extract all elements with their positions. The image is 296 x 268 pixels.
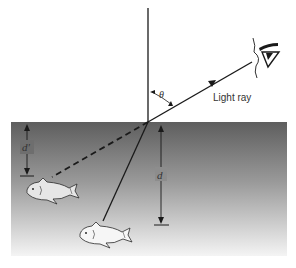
observer-eye-icon xyxy=(253,38,279,78)
light-ray-label: Light ray xyxy=(213,92,251,103)
theta-label: θ xyxy=(159,89,164,100)
theta-arrow-left-icon xyxy=(150,90,155,94)
apparent-depth-label: d' xyxy=(22,141,31,153)
real-depth-label: d xyxy=(157,169,163,181)
refraction-diagram: θ Light ray d' d xyxy=(0,0,296,268)
theta-arrow-right-icon xyxy=(168,101,173,106)
